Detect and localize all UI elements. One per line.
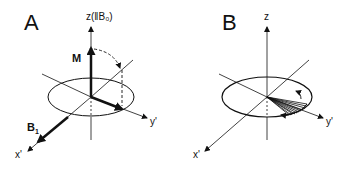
rf-field-subscript: 1 bbox=[35, 128, 39, 135]
x-axis-label-b: x' bbox=[193, 150, 200, 160]
z-axis-label-b: z bbox=[264, 12, 269, 22]
rotation-arrow-ccw bbox=[296, 91, 301, 99]
rotated-magnetization-vector bbox=[91, 97, 122, 109]
x-axis-label-a: x' bbox=[15, 150, 22, 160]
z-axis-label-a: z(‖B₀) bbox=[86, 12, 113, 22]
panel-label-a: A bbox=[24, 12, 39, 34]
magnetization-label: M bbox=[72, 53, 81, 64]
nutation-arc bbox=[94, 49, 120, 68]
diagram-canvas bbox=[0, 0, 352, 169]
rf-field-label: B1 bbox=[27, 122, 39, 135]
rf-field-vector bbox=[38, 117, 68, 142]
panel-a bbox=[28, 27, 147, 151]
y-axis-label-a: y' bbox=[150, 117, 157, 127]
x-axis-back-b bbox=[267, 60, 309, 97]
dephasing-fan bbox=[267, 97, 307, 115]
y-axis-label-b: y' bbox=[326, 117, 333, 127]
x-axis-b bbox=[205, 97, 267, 151]
panel-label-b: B bbox=[222, 12, 237, 34]
panel-b bbox=[205, 27, 323, 151]
rf-field-symbol: B bbox=[27, 121, 35, 133]
y-axis-back bbox=[42, 74, 91, 97]
